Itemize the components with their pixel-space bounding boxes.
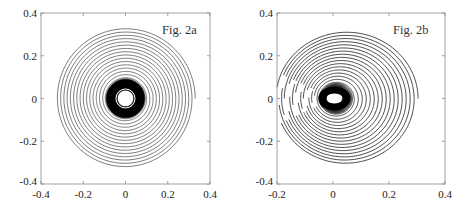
y-tick-label: -0.4 [20, 175, 38, 187]
x-tick-label: 0 [123, 188, 129, 200]
y-tick-label: 0.2 [23, 50, 37, 62]
x-tick-label: 0 [330, 188, 336, 200]
panel-title-b: Fig. 2b [393, 23, 428, 37]
x-tick-label: -0.2 [268, 188, 285, 200]
y-tick-label: 0 [32, 93, 38, 105]
panel-fig-2b: -0.200.20.40.40.20-0.2-0.4 Fig. 2b [256, 7, 453, 200]
trajectory-line [293, 84, 295, 105]
white-core [121, 94, 129, 102]
x-tick-label: -0.2 [75, 188, 92, 200]
x-tick-label: 0.2 [161, 188, 175, 200]
x-tick-label: 0.2 [382, 188, 396, 200]
y-tick-label: -0.2 [256, 135, 273, 147]
panel-fig-2a: -0.4-0.200.20.40.40.20-0.2-0.4 Fig. 2a [20, 7, 218, 200]
y-tick-label: 0 [268, 93, 274, 105]
y-tick-label: -0.2 [20, 135, 37, 147]
trajectory-line [298, 61, 382, 139]
figure: -0.4-0.200.20.40.40.20-0.2-0.4 Fig. 2a -… [0, 0, 473, 215]
spiral-trajectory-a [57, 29, 195, 167]
y-tick-label: -0.4 [256, 175, 274, 187]
x-tick-label: -0.4 [32, 188, 50, 200]
trajectory-line [282, 88, 285, 115]
trajectory-line [303, 64, 378, 135]
spiral-trajectory-b [277, 32, 418, 163]
x-tick-label: 0.4 [203, 188, 217, 200]
x-tick-label: 0.4 [438, 188, 452, 200]
trajectory-line [301, 92, 303, 109]
y-tick-label: 0.4 [259, 7, 273, 19]
panel-title-a: Fig. 2a [162, 23, 197, 37]
y-tick-label: 0.2 [259, 50, 273, 62]
y-tick-label: 0.4 [23, 7, 37, 19]
white-core [327, 94, 339, 102]
trajectory-line [312, 91, 313, 103]
